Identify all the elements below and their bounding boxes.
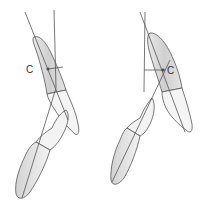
right-label-c: C xyxy=(167,65,174,76)
right-upper-crown xyxy=(148,33,182,92)
left-label-c: C xyxy=(26,64,33,75)
right-panel xyxy=(111,12,192,184)
left-lower-root xyxy=(36,110,68,150)
dental-diagram: C C xyxy=(0,0,204,209)
left-lower-crown xyxy=(16,142,50,198)
left-panel xyxy=(16,10,79,198)
